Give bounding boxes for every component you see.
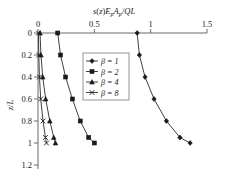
series-line-beta-8 [38,33,46,143]
data-point-beta-1 [152,97,156,102]
data-point-beta-2 [78,119,82,123]
data-point-beta-1 [188,141,192,146]
series-line-beta-4 [40,33,55,143]
data-point-beta-2 [70,97,74,101]
data-point-beta-2 [87,136,91,140]
data-point-beta-4 [43,97,48,101]
x-tick-label: 1 [149,19,153,29]
data-point-beta-2 [92,141,96,145]
x-axis-title-text: s(z)EpAp/QL [93,6,135,17]
y-tick-label: 0.2 [21,50,32,60]
data-point-beta-2 [64,75,68,79]
data-point-beta-1 [135,31,139,36]
data-point-beta-1 [137,53,141,58]
x-tick-label: 0.5 [89,19,100,29]
y-tick-label: 1.2 [21,160,32,170]
data-point-beta-2 [59,53,63,57]
data-point-beta-2 [56,31,60,35]
y-tick-label: 0.4 [21,72,32,82]
data-point-beta-4 [48,119,53,123]
y-tick-label: 0 [28,28,32,38]
legend-label-beta-2: β = 2 [100,68,118,77]
y-tick-label: 1 [28,138,32,148]
y-tick-label: 0.6 [21,94,32,104]
y-axis-title-text: z/L [5,100,15,112]
legend-marker-beta-2 [90,70,94,74]
data-point-beta-4 [51,135,56,139]
chart-canvas: 00.511.500.20.40.60.811.2β = 1β = 2β = 4… [0,0,230,190]
legend-label-beta-4: β = 4 [100,78,118,87]
legend-label-beta-1: β = 1 [100,57,118,66]
data-point-beta-1 [143,75,147,80]
y-tick-label: 0.8 [21,116,32,126]
y-axis-title: z/L [5,100,15,112]
series-line-beta-1 [137,33,190,143]
chart-generated-layer: 00.511.500.20.40.60.811.2β = 1β = 2β = 4… [21,19,212,170]
data-point-beta-4 [53,141,58,145]
x-axis-title: s(z)EpAp/QL [93,6,135,17]
x-tick-label: 0 [36,19,40,29]
legend-label-beta-8: β = 8 [100,89,118,98]
x-tick-label: 1.5 [202,19,213,29]
